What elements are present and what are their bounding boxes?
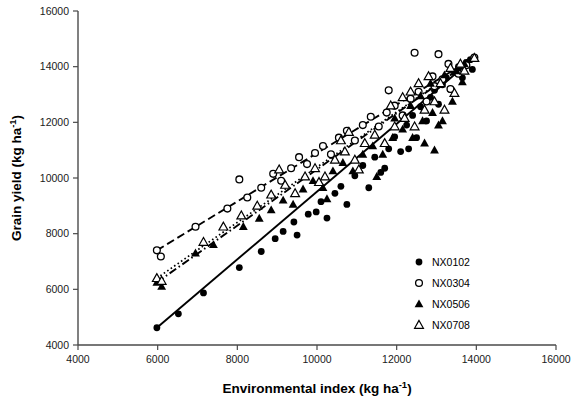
x-tick-label: 14000 bbox=[462, 353, 491, 365]
x-tick-label: 10000 bbox=[302, 353, 331, 365]
y-axis-title-tail: ) bbox=[9, 115, 24, 120]
marker-filled-triangle bbox=[267, 205, 276, 213]
legend-label-nx0506: NX0506 bbox=[432, 298, 470, 310]
marker-filled-circle bbox=[313, 209, 320, 216]
marker-filled-circle bbox=[236, 264, 243, 271]
marker-filled-triangle bbox=[279, 196, 288, 204]
x-tick-label: 12000 bbox=[382, 353, 411, 365]
marker-filled-circle bbox=[280, 228, 287, 235]
marker-filled-triangle bbox=[338, 158, 347, 166]
marker-open-circle bbox=[288, 165, 295, 172]
marker-filled-circle bbox=[305, 211, 312, 218]
scatter-plot: 4000600080001000012000140001600040006000… bbox=[0, 0, 575, 411]
marker-open-circle bbox=[383, 109, 390, 116]
marker-filled-triangle bbox=[428, 108, 437, 116]
marker-open-triangle bbox=[360, 139, 369, 147]
marker-open-triangle bbox=[410, 122, 419, 130]
marker-open-circle bbox=[320, 143, 327, 150]
marker-open-triangle bbox=[406, 87, 415, 95]
marker-open-circle bbox=[385, 87, 392, 94]
marker-filled-circle bbox=[416, 259, 423, 266]
y-tick-label: 16000 bbox=[40, 5, 69, 17]
marker-open-triangle bbox=[301, 172, 310, 180]
marker-open-circle bbox=[224, 205, 231, 212]
marker-open-circle bbox=[192, 223, 199, 230]
chart-container: 4000600080001000012000140001600040006000… bbox=[0, 0, 575, 411]
marker-filled-circle bbox=[272, 235, 279, 242]
marker-filled-circle bbox=[409, 112, 416, 119]
x-tick-label: 8000 bbox=[226, 353, 250, 365]
marker-open-circle bbox=[435, 51, 442, 58]
marker-filled-circle bbox=[153, 324, 160, 331]
x-axis-title-tail: ) bbox=[407, 381, 412, 396]
marker-filled-circle bbox=[365, 184, 372, 191]
marker-filled-triangle bbox=[289, 200, 298, 208]
marker-open-triangle bbox=[380, 139, 389, 147]
marker-filled-triangle bbox=[415, 299, 424, 307]
x-tick-label: 6000 bbox=[146, 353, 170, 365]
marker-open-circle bbox=[153, 247, 160, 254]
marker-filled-triangle bbox=[299, 185, 308, 193]
marker-open-triangle bbox=[291, 189, 300, 197]
marker-filled-triangle bbox=[255, 214, 264, 222]
marker-open-triangle bbox=[321, 172, 330, 180]
x-tick-label: 16000 bbox=[541, 353, 570, 365]
marker-open-triangle bbox=[199, 237, 208, 245]
marker-open-circle bbox=[411, 49, 418, 56]
marker-filled-circle bbox=[397, 148, 404, 155]
marker-filled-circle bbox=[403, 122, 410, 129]
marker-filled-circle bbox=[381, 165, 388, 172]
marker-filled-circle bbox=[175, 310, 182, 317]
marker-open-triangle bbox=[414, 79, 423, 87]
marker-open-triangle bbox=[370, 130, 379, 138]
marker-filled-circle bbox=[332, 190, 339, 197]
marker-open-triangle bbox=[267, 190, 276, 198]
marker-open-circle bbox=[351, 137, 358, 144]
marker-open-triangle bbox=[440, 105, 449, 113]
marker-open-triangle bbox=[237, 211, 246, 219]
marker-filled-triangle bbox=[329, 166, 338, 174]
marker-open-triangle bbox=[219, 222, 228, 230]
x-tick-label: 4000 bbox=[66, 353, 90, 365]
series-nx0304 bbox=[153, 49, 477, 260]
y-tick-label: 4000 bbox=[46, 339, 70, 351]
marker-open-circle bbox=[236, 176, 243, 183]
marker-open-circle bbox=[375, 123, 382, 130]
marker-filled-circle bbox=[371, 154, 378, 161]
marker-open-triangle bbox=[415, 320, 424, 328]
marker-filled-triangle bbox=[448, 97, 457, 105]
marker-open-circle bbox=[157, 253, 164, 260]
marker-filled-triangle bbox=[430, 146, 439, 154]
marker-open-triangle bbox=[398, 93, 407, 101]
marker-filled-circle bbox=[405, 145, 412, 152]
marker-open-circle bbox=[258, 184, 265, 191]
y-tick-label: 12000 bbox=[40, 116, 69, 128]
marker-open-circle bbox=[312, 150, 319, 157]
marker-filled-triangle bbox=[323, 194, 332, 202]
tick-labels: 4000600080001000012000140001600040006000… bbox=[40, 5, 571, 365]
marker-filled-triangle bbox=[420, 139, 429, 147]
y-tick-label: 8000 bbox=[46, 227, 70, 239]
marker-open-triangle bbox=[253, 201, 262, 209]
chart-legend: NX0102NX0304NX0506NX0708 bbox=[415, 256, 471, 331]
y-tick-label: 10000 bbox=[40, 172, 69, 184]
marker-filled-circle bbox=[338, 183, 345, 190]
marker-filled-triangle bbox=[378, 150, 387, 158]
legend-label-nx0708: NX0708 bbox=[432, 319, 470, 331]
marker-open-circle bbox=[359, 122, 366, 129]
y-axis-title: Grain yield (kg ha-1) bbox=[7, 115, 24, 241]
marker-filled-circle bbox=[294, 232, 301, 239]
y-axis-title-base: Grain yield (kg ha bbox=[9, 127, 24, 241]
marker-open-circle bbox=[296, 154, 303, 161]
marker-open-circle bbox=[367, 113, 374, 120]
marker-open-circle bbox=[244, 194, 251, 201]
marker-open-circle bbox=[304, 161, 311, 168]
marker-open-triangle bbox=[340, 147, 349, 155]
marker-open-circle bbox=[328, 151, 335, 158]
marker-open-circle bbox=[416, 280, 423, 287]
marker-filled-circle bbox=[324, 215, 331, 222]
marker-open-triangle bbox=[275, 165, 284, 173]
marker-filled-circle bbox=[290, 219, 297, 226]
marker-filled-circle bbox=[343, 201, 350, 208]
legend-label-nx0102: NX0102 bbox=[432, 256, 470, 268]
